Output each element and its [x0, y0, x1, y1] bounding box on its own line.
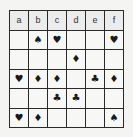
cell-f1-heart-icon[interactable]: ♥ [105, 30, 124, 50]
column-header-row: a b c d e f [10, 11, 124, 31]
cell-b5-diamond-icon[interactable]: ♦ [29, 108, 48, 128]
column-header-d: d [67, 11, 86, 31]
cell-a1[interactable] [10, 30, 29, 50]
cell-a2[interactable] [10, 50, 29, 70]
column-header-a: a [10, 11, 29, 31]
cell-e1[interactable] [86, 30, 105, 50]
cell-c2[interactable] [48, 50, 67, 70]
board-row-2: ♦ [10, 50, 124, 70]
board-row-4: ♣ ♣ [10, 89, 124, 109]
cell-b3-diamond-icon[interactable]: ♦ [29, 69, 48, 89]
column-header-c: c [48, 11, 67, 31]
board-row-3: ♥ ♦ ♦ ♣ ♦ [10, 69, 124, 89]
cell-c1-heart-icon[interactable]: ♥ [48, 30, 67, 50]
cell-c3-diamond-icon[interactable]: ♦ [48, 69, 67, 89]
cell-d3[interactable] [67, 69, 86, 89]
cell-f3-diamond-icon[interactable]: ♦ [105, 69, 124, 89]
cell-a4[interactable] [10, 89, 29, 109]
cell-d4-club-icon[interactable]: ♣ [67, 89, 86, 109]
cell-c5[interactable] [48, 108, 67, 128]
cell-f2[interactable] [105, 50, 124, 70]
cell-f5-spade-icon[interactable]: ♠ [105, 108, 124, 128]
cell-b4[interactable] [29, 89, 48, 109]
cell-e3-club-icon[interactable]: ♣ [86, 69, 105, 89]
cell-a5-heart-icon[interactable]: ♥ [10, 108, 29, 128]
board-row-5: ♥ ♦ ♠ [10, 108, 124, 128]
column-header-e: e [86, 11, 105, 31]
cell-f4[interactable] [105, 89, 124, 109]
cell-e2[interactable] [86, 50, 105, 70]
board-row-1: ♠ ♥ ♥ [10, 30, 124, 50]
cell-d2-diamond-icon[interactable]: ♦ [67, 50, 86, 70]
column-header-b: b [29, 11, 48, 31]
cell-c4-club-icon[interactable]: ♣ [48, 89, 67, 109]
cell-d5[interactable] [67, 108, 86, 128]
column-header-f: f [105, 11, 124, 31]
cell-b2[interactable] [29, 50, 48, 70]
suit-grid-board: a b c d e f ♠ ♥ ♥ ♦ ♥ ♦ ♦ ♣ ♦ ♣ ♣ ♥ [9, 10, 124, 128]
cell-e4[interactable] [86, 89, 105, 109]
cell-e5[interactable] [86, 108, 105, 128]
cell-d1[interactable] [67, 30, 86, 50]
cell-b1-spade-icon[interactable]: ♠ [29, 30, 48, 50]
cell-a3-heart-icon[interactable]: ♥ [10, 69, 29, 89]
